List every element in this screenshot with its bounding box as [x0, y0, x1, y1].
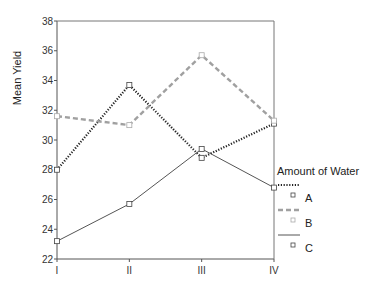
series-line-c — [57, 149, 274, 241]
series-layer — [55, 53, 277, 244]
x-tick-label: II — [127, 265, 133, 276]
legend-label-b: B — [305, 217, 312, 229]
data-point-c — [127, 201, 132, 206]
legend-marker-c — [291, 243, 295, 247]
y-tick-label: 36 — [42, 45, 54, 56]
y-axis-title: Mean Yield — [11, 51, 23, 105]
legend-label-a: A — [305, 192, 313, 204]
data-point-b — [199, 53, 204, 58]
legend-label-c: C — [305, 242, 313, 254]
data-point-b — [127, 123, 132, 128]
line-chart: 222426283032343638IIIIIIIV Mean Yield Am… — [0, 0, 377, 285]
y-tick-label: 32 — [42, 105, 54, 116]
x-tick-label: IV — [269, 265, 279, 276]
series-line-b — [57, 55, 274, 125]
data-point-b — [272, 118, 277, 123]
data-point-c — [272, 185, 277, 190]
y-tick-label: 24 — [42, 224, 54, 235]
y-tick-label: 30 — [42, 135, 54, 146]
y-tick-label: 28 — [42, 164, 54, 175]
data-point-a — [127, 82, 132, 87]
legend-title: Amount of Water — [277, 165, 359, 177]
series-line-a — [57, 85, 274, 170]
data-point-c — [55, 239, 60, 244]
y-tick-label: 26 — [42, 194, 54, 205]
legend-marker-a — [291, 193, 295, 197]
y-tick-label: 34 — [42, 75, 54, 86]
data-point-a — [55, 167, 60, 172]
data-point-b — [55, 114, 60, 119]
y-tick-label: 38 — [42, 16, 54, 27]
x-tick-label: I — [56, 265, 59, 276]
data-point-a — [199, 155, 204, 160]
legend: Amount of Water ABC — [277, 165, 359, 254]
legend-marker-b — [291, 218, 295, 222]
y-tick-label: 22 — [42, 254, 54, 265]
x-tick-label: III — [197, 265, 205, 276]
data-point-c — [199, 146, 204, 151]
